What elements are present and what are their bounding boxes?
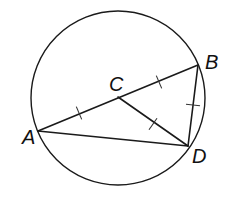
point-label-a: A xyxy=(21,126,35,148)
segment-ad xyxy=(38,131,188,146)
point-label-c: C xyxy=(109,73,124,95)
geometry-diagram: A B C D xyxy=(0,0,232,197)
point-label-d: D xyxy=(192,145,206,167)
segment-cd xyxy=(118,97,188,146)
point-label-b: B xyxy=(205,51,218,73)
